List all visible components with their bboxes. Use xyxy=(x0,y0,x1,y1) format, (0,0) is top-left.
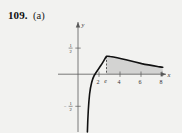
x-tick-label-6: 6 xyxy=(139,79,142,85)
svg-text:2: 2 xyxy=(69,49,72,54)
svg-text:−: − xyxy=(64,104,67,109)
y-axis-name: y xyxy=(81,21,85,28)
x-tick-label-e: e xyxy=(104,78,107,84)
y-tick-label-negative-half: − 1 2 xyxy=(64,101,73,112)
x-tick-label-2: 2 xyxy=(97,79,100,85)
svg-text:1: 1 xyxy=(69,43,72,48)
x-axis-name: x xyxy=(167,71,171,78)
svg-text:1: 1 xyxy=(69,101,72,106)
x-tick-label-4: 4 xyxy=(118,79,121,85)
y-tick-label-positive-half: 1 2 xyxy=(69,43,73,54)
svg-text:2: 2 xyxy=(69,107,72,112)
x-tick-label-8: 8 xyxy=(160,79,163,85)
x-axis-arrowhead xyxy=(161,72,166,77)
exercise-figure-109a: 109. (a) y x 2 e 4 6 8 1 xyxy=(0,0,182,133)
y-axis-arrowhead xyxy=(76,22,80,28)
plot-svg: y x 2 e 4 6 8 1 2 − 1 2 xyxy=(0,0,182,133)
